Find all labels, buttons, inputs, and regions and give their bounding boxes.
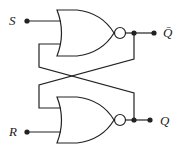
nor-gate-top (57, 10, 114, 56)
label-q: Q (160, 114, 169, 127)
junction-qbar (131, 30, 136, 35)
label-s: S (9, 14, 16, 27)
terminal-s (24, 18, 29, 23)
nor-gate-bottom (57, 97, 114, 143)
sr-latch-diagram (0, 0, 181, 152)
label-qbar: Q̄ (163, 26, 172, 39)
junction-q (131, 117, 136, 122)
terminal-r (24, 129, 29, 134)
terminal-qbar (151, 30, 156, 35)
inverter-bubble-top (115, 28, 126, 39)
inverter-bubble-bottom (115, 115, 126, 126)
label-r: R (9, 125, 17, 138)
terminal-q (147, 117, 152, 122)
